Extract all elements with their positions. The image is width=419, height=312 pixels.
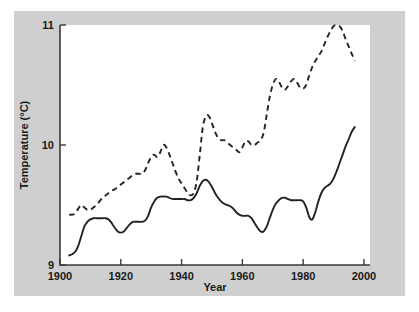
x-tick-label: 1900 bbox=[48, 270, 72, 282]
x-tick-label: 2000 bbox=[352, 270, 376, 282]
x-tick-label: 1980 bbox=[291, 270, 315, 282]
y-tick-label: 11 bbox=[42, 19, 54, 31]
y-axis-tick-labels: 91011 bbox=[42, 19, 54, 271]
x-axis-title: Year bbox=[203, 281, 227, 293]
x-tick-label: 1960 bbox=[230, 270, 254, 282]
x-tick-label: 1920 bbox=[109, 270, 133, 282]
plot-area-background bbox=[60, 25, 370, 265]
x-tick-label: 1940 bbox=[169, 270, 193, 282]
y-tick-label: 9 bbox=[48, 259, 54, 271]
temperature-line-chart: 190019201940196019802000 91011 Year Temp… bbox=[0, 0, 419, 312]
y-tick-label: 10 bbox=[42, 139, 54, 151]
y-axis-title: Temperature (°C) bbox=[18, 100, 30, 189]
